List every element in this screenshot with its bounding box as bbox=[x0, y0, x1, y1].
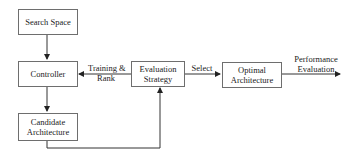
edge-label-line2: Evaluation bbox=[290, 64, 342, 74]
node-label-line2: Strategy bbox=[144, 74, 172, 84]
node-label: Controller bbox=[31, 69, 66, 79]
node-label-line1: Optimal bbox=[238, 65, 266, 75]
edge-label-training-rank: Training & Rank bbox=[88, 63, 124, 83]
node-search-space: Search Space bbox=[18, 9, 78, 35]
edge-label-line1: Training & bbox=[88, 63, 124, 73]
edge-label-line1: Performance bbox=[290, 54, 342, 64]
node-evaluation-strategy: Evaluation Strategy bbox=[131, 61, 185, 87]
edge-label-line2: Rank bbox=[88, 73, 124, 83]
node-label-line2: Architecture bbox=[231, 75, 273, 85]
node-label-line1: Evaluation bbox=[140, 64, 177, 74]
node-label-line1: Candidate bbox=[31, 117, 65, 127]
node-label: Search Space bbox=[25, 17, 71, 27]
node-controller: Controller bbox=[18, 61, 78, 87]
edge-label-select: Select bbox=[188, 63, 216, 73]
node-optimal-architecture: Optimal Architecture bbox=[222, 62, 282, 88]
edge-label-performance-evaluation: Performance Evaluation bbox=[290, 54, 342, 74]
node-candidate-architecture: Candidate Architecture bbox=[18, 113, 78, 141]
node-label-line2: Architecture bbox=[27, 127, 69, 137]
